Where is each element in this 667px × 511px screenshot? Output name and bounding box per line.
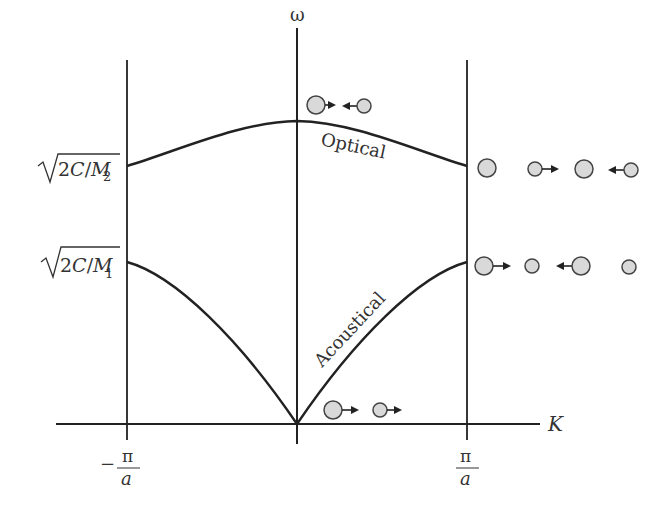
optical-boundary-atoms [478,159,638,178]
dispersion-diagram: ω K − π a π a 2C/M 2 2C/M 1 Optical Acou… [0,0,667,511]
x-axis-label: K [547,412,564,436]
tick-denominator: a [121,468,132,489]
tick-numerator: π [122,446,133,466]
light-atom-icon [624,163,638,177]
tick-sign: − [100,453,115,474]
acoustic-k0-atoms [324,401,400,419]
tick-numerator: π [460,446,471,466]
acoustic-boundary-atoms [475,257,636,275]
optical-label: Optical [319,128,388,162]
heavy-atom-icon [475,257,493,275]
light-atom-icon [528,162,542,176]
subscript: 1 [105,266,113,281]
heavy-atom-icon [575,160,593,178]
acoustical-label: Acoustical [309,287,390,371]
light-atom-icon [357,99,371,113]
heavy-atom-icon [572,257,590,275]
light-atom-icon [373,403,387,417]
y-label-acoustic-edge: 2C/M 1 [41,247,120,281]
light-atom-icon [525,259,539,273]
axes [56,28,540,444]
heavy-atom-icon [307,96,325,114]
subscript: 2 [103,169,111,184]
optical-k0-atoms [307,96,371,114]
heavy-atom-icon [478,159,496,177]
y-axis-label: ω [290,4,305,25]
x-tick-left: − π a [100,446,140,489]
heavy-atom-icon [324,401,342,419]
tick-denominator: a [460,468,471,489]
y-label-optical-edge: 2C/M 2 [38,154,120,184]
light-atom-icon [622,260,636,274]
x-tick-right: π a [456,446,479,489]
